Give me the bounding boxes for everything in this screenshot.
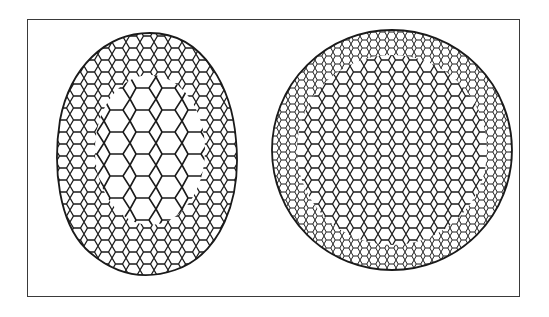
sphere-mesh: [270, 28, 515, 273]
figure-canvas: [0, 0, 549, 317]
egg-mesh: [40, 25, 250, 285]
